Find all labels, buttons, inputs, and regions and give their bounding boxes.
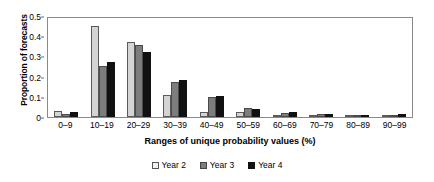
bar-group <box>200 18 224 117</box>
bar <box>252 109 260 117</box>
x-axis-tick-label: 80–89 <box>340 120 376 134</box>
bar <box>54 111 62 117</box>
bar-group <box>382 18 406 117</box>
bar <box>179 80 187 117</box>
bar-group <box>345 18 369 117</box>
bar <box>273 115 281 117</box>
x-axis-tick-label: 30–39 <box>157 120 193 134</box>
bar-group <box>127 18 151 117</box>
legend-item: Year 3 <box>200 160 234 170</box>
bar <box>317 114 325 117</box>
y-axis-tick-mark <box>41 37 44 38</box>
bar <box>107 62 115 117</box>
y-axis-tick-label: 0.2 <box>29 73 41 82</box>
legend-label: Year 3 <box>210 160 234 170</box>
x-axis-tick-label: 60–69 <box>267 120 303 134</box>
legend-swatch-icon <box>152 162 159 169</box>
bar <box>171 82 179 117</box>
bar-group <box>309 18 333 117</box>
bar <box>127 42 135 117</box>
chart-legend: Year 2Year 3Year 4 <box>0 160 434 170</box>
bar <box>236 112 244 117</box>
x-axis-tick-label: 40–49 <box>194 120 230 134</box>
bar <box>361 115 369 117</box>
y-axis-tick-label: 0.1 <box>29 94 41 103</box>
x-axis-tick-labels: 0–910–1920–2930–3940–4950–5960–6970–7980… <box>47 120 413 134</box>
legend-item: Year 2 <box>152 160 186 170</box>
bar <box>353 115 361 117</box>
bar <box>70 112 78 117</box>
bar <box>200 112 208 117</box>
legend-swatch-icon <box>248 162 255 169</box>
bar <box>99 66 107 118</box>
y-axis-tick-mark <box>41 17 44 18</box>
x-axis-title: Ranges of unique probability values (%) <box>47 136 413 146</box>
y-axis-tick-mark <box>41 118 44 119</box>
bar <box>281 113 289 117</box>
x-axis-tick-label: 20–29 <box>120 120 156 134</box>
bar <box>398 114 406 117</box>
x-axis-tick-label: 10–19 <box>84 120 120 134</box>
bar <box>216 96 224 117</box>
y-axis-tick-labels: 00.10.20.30.40.5 <box>22 17 44 118</box>
x-axis-tick-label: 70–79 <box>303 120 339 134</box>
bar-group <box>163 18 187 117</box>
bar <box>382 115 390 117</box>
bar-chart-figure: Proportion of forecasts 00.10.20.30.40.5… <box>0 0 434 182</box>
bar-group <box>236 18 260 117</box>
bar <box>345 115 353 117</box>
bar <box>135 45 143 117</box>
legend-swatch-icon <box>200 162 207 169</box>
legend-label: Year 2 <box>162 160 186 170</box>
x-axis-tick-label: 50–59 <box>230 120 266 134</box>
bar <box>289 112 297 117</box>
bar-groups <box>48 18 412 117</box>
x-axis-tick-label: 90–99 <box>377 120 413 134</box>
y-axis-tick-mark <box>41 57 44 58</box>
y-axis-tick-mark <box>41 97 44 98</box>
bar <box>309 115 317 117</box>
y-axis-tick-label: 0.5 <box>29 13 41 22</box>
bar <box>143 52 151 117</box>
y-axis-tick-label: 0.3 <box>29 53 41 62</box>
legend-item: Year 4 <box>248 160 282 170</box>
legend-label: Year 4 <box>258 160 282 170</box>
bar-group <box>54 18 78 117</box>
plot-area <box>47 17 413 118</box>
bar <box>325 114 333 117</box>
bar <box>91 26 99 117</box>
y-axis-tick-mark <box>41 77 44 78</box>
bar <box>62 114 70 117</box>
bar-group <box>273 18 297 117</box>
y-axis-tick-label: 0.4 <box>29 33 41 42</box>
bar-group <box>91 18 115 117</box>
bar <box>208 97 216 117</box>
x-axis-tick-label: 0–9 <box>47 120 83 134</box>
bar <box>163 95 171 117</box>
bar <box>244 108 252 117</box>
bar <box>390 115 398 117</box>
